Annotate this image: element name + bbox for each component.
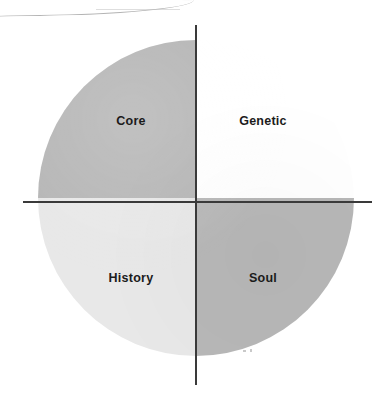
quadrant-label-genetic: Genetic: [239, 114, 287, 128]
quadrant-label-core: Core: [116, 114, 145, 128]
scan-streak-artifact: [0, 0, 194, 17]
scan-streak-artifact-secondary: [96, 0, 180, 10]
scanned-diagram-page: Core Genetic History Soul: [0, 0, 389, 405]
horizontal-axis: [23, 201, 372, 203]
quadrant-label-history: History: [109, 271, 154, 285]
quadrant-label-soul: Soul: [249, 271, 277, 285]
vertical-axis: [195, 25, 197, 385]
